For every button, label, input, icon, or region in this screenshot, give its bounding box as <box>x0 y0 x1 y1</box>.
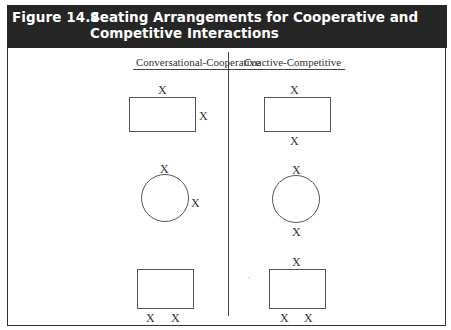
seat-marker: X <box>304 312 313 324</box>
seat-marker: X <box>146 312 155 324</box>
column-divider <box>228 52 229 316</box>
seat-marker: X <box>158 84 167 96</box>
rectangle-table <box>137 269 194 309</box>
seat-marker: X <box>160 163 169 175</box>
seat-marker: X <box>290 84 299 96</box>
figure-title: Seating Arrangements for Cooperative and… <box>90 9 440 41</box>
rectangle-table <box>129 97 196 132</box>
stray-mark <box>249 277 250 278</box>
figure-frame <box>7 5 446 326</box>
header-underline <box>133 69 345 70</box>
seat-marker: X <box>292 256 301 268</box>
column-header-competitive: Coactive-Competitive <box>244 56 341 68</box>
circle-table <box>272 175 320 223</box>
rectangle-table <box>269 269 326 309</box>
seat-marker: X <box>280 312 289 324</box>
circle-table <box>141 174 189 222</box>
seat-marker: X <box>292 226 301 238</box>
seat-marker: X <box>292 164 301 176</box>
seat-marker: X <box>290 135 299 147</box>
column-header-cooperative: Conversational-Cooperative <box>136 56 260 68</box>
figure-number: Figure 14.4 <box>12 9 100 25</box>
rectangle-table <box>264 97 331 132</box>
seat-marker: X <box>171 312 180 324</box>
seat-marker: X <box>191 197 200 209</box>
figure-header: Figure 14.4 Seating Arrangements for Coo… <box>7 5 447 48</box>
seat-marker: X <box>199 110 208 122</box>
